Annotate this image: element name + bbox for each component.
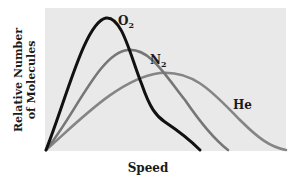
x-axis-label: Speed (128, 161, 169, 175)
speed-distribution-chart: O2 N2 He Speed Relative Number of Molecu… (0, 0, 298, 181)
y-axis-label-line2: of Molecules (25, 41, 38, 120)
y-axis-label: Relative Number of Molecules (12, 28, 38, 132)
y-axis-label-line1: Relative Number (12, 28, 25, 132)
he-label: He (233, 98, 252, 112)
